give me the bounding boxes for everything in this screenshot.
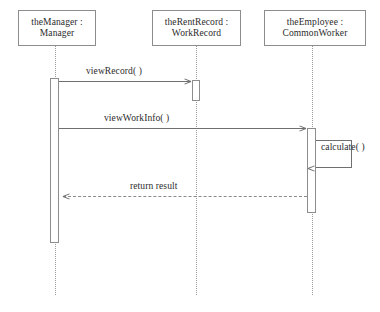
participant-box-rentrecord[interactable]: theRentRecord : WorkRecord bbox=[152, 10, 241, 46]
sequence-diagram-canvas: theManager : Manager theRentRecord : Wor… bbox=[0, 0, 380, 312]
participant-class-name: CommonWorker bbox=[283, 28, 348, 39]
activation-bar-rentrecord[interactable] bbox=[192, 80, 200, 101]
participant-box-manager[interactable]: theManager : Manager bbox=[18, 10, 96, 46]
participant-instance-name: theRentRecord : bbox=[165, 17, 229, 28]
activation-bar-manager[interactable] bbox=[50, 78, 59, 243]
participant-class-name: Manager bbox=[40, 28, 74, 39]
message-label-calculate: calculate( ) bbox=[321, 142, 365, 152]
participant-instance-name: theManager : bbox=[31, 17, 83, 28]
participant-instance-name: theEmployee : bbox=[287, 17, 343, 28]
participant-class-name: WorkRecord bbox=[172, 28, 221, 39]
message-label-viewworkinfo: viewWorkInfo( ) bbox=[104, 113, 169, 123]
participant-box-employee[interactable]: theEmployee : CommonWorker bbox=[264, 10, 366, 46]
message-line-viewrecord bbox=[59, 81, 191, 82]
message-line-viewworkinfo bbox=[59, 128, 306, 129]
message-label-returnresult: return result bbox=[130, 181, 177, 191]
message-label-viewrecord: viewRecord( ) bbox=[86, 66, 142, 76]
message-line-returnresult bbox=[63, 196, 307, 197]
